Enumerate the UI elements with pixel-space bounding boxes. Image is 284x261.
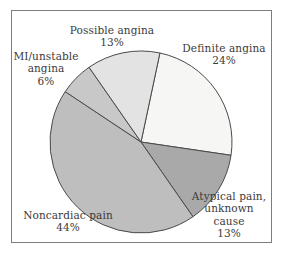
slice-label-atypical-pain-name-line2: unknown [186,202,272,214]
slice-label-possible-angina-percent: 13% [58,36,166,48]
slice-label-atypical-pain-name-line1: Atypical pain, [186,190,272,202]
slice-label-noncardiac-pain-name: Noncardiac pain [12,209,124,221]
slice-label-noncardiac-pain-percent: 44% [12,221,124,233]
slice-label-mi-unstable-angina-percent: 6% [6,75,86,87]
slice-label-noncardiac-pain: Noncardiac pain 44% [12,209,124,234]
slice-label-mi-unstable-angina: MI/unstable angina 6% [6,50,86,87]
pie-chart-figure: Possible angina 13% Definite angina 24% … [0,0,284,261]
slice-label-atypical-pain-percent: 13% [186,227,272,239]
slice-label-possible-angina: Possible angina 13% [58,24,166,49]
slice-label-definite-angina-name: Definite angina [176,42,272,54]
slice-label-mi-unstable-angina-name-line2: angina [6,62,86,74]
slice-label-atypical-pain-name-line3: cause [186,215,272,227]
slice-label-definite-angina-percent: 24% [176,54,272,66]
slice-label-definite-angina: Definite angina 24% [176,42,272,67]
slice-label-atypical-pain: Atypical pain, unknown cause 13% [186,190,272,240]
slice-label-mi-unstable-angina-name-line1: MI/unstable [6,50,86,62]
slice-label-possible-angina-name: Possible angina [58,24,166,36]
